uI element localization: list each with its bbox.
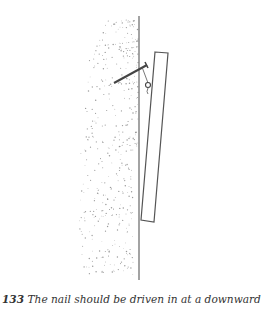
wire-loop [146, 83, 151, 88]
nail-diagram [0, 0, 273, 280]
wall-stipple [79, 19, 138, 274]
figure-number: 133 [2, 293, 24, 305]
wire-end [147, 88, 148, 94]
figure-caption: 133 The nail should be driven in at a do… [2, 293, 273, 305]
caption-text: The nail should be driven in at a downwa… [28, 293, 261, 305]
hanging-wire [142, 67, 148, 83]
picture-frame [141, 52, 168, 222]
